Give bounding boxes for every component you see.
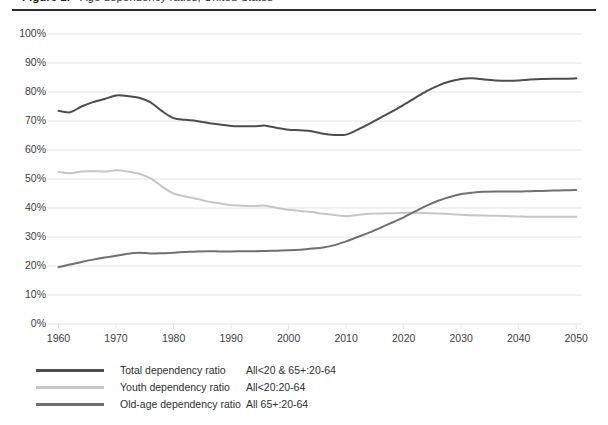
legend-series-name: Total dependency ratio: [120, 362, 226, 378]
figure-title-strip: Figure 1.Age dependency ratios, United S…: [0, 0, 608, 9]
x-axis-label: 1980: [154, 332, 194, 344]
series-line-oldage: [59, 190, 577, 267]
series-line-youth: [59, 170, 577, 216]
title-divider: [12, 9, 596, 11]
figure-container: Figure 1.Age dependency ratios, United S…: [0, 0, 608, 425]
page-title: Age dependency ratios, United States: [70, 0, 273, 3]
x-axis-label: 2010: [326, 332, 366, 344]
gridlines: [47, 34, 582, 324]
x-axis-ticks: [59, 324, 577, 329]
x-axis-label: 2000: [269, 332, 309, 344]
x-axis-label: 2020: [384, 332, 424, 344]
legend-series-name: Youth dependency ratio: [120, 379, 230, 395]
legend-series-definition: All 65+:20-64: [246, 396, 308, 412]
x-axis-label: 1970: [96, 332, 136, 344]
legend-series-definition: All<20 & 65+:20-64: [246, 362, 336, 378]
x-axis-label: 1990: [211, 332, 251, 344]
data-lines: [59, 78, 577, 267]
x-axis-label: 1960: [39, 332, 79, 344]
legend-item[interactable]: Total dependency ratioAll<20 & 65+:20-64: [36, 362, 456, 378]
x-axis-labels: 1960197019801990200020102020203020402050: [0, 332, 608, 352]
chart-canvas: [0, 22, 608, 332]
x-axis-label: 2030: [441, 332, 481, 344]
x-axis-label: 2040: [499, 332, 539, 344]
legend-item[interactable]: Old-age dependency ratioAll 65+:20-64: [36, 396, 456, 412]
chart-legend: Total dependency ratioAll<20 & 65+:20-64…: [0, 362, 608, 420]
figure-label: Figure 1.: [0, 0, 70, 3]
legend-line-swatch: [36, 369, 104, 372]
legend-series-name: Old-age dependency ratio: [120, 396, 241, 412]
series-line-total: [59, 78, 577, 135]
legend-series-definition: All<20:20-64: [246, 379, 305, 395]
legend-line-swatch: [36, 386, 104, 389]
legend-item[interactable]: Youth dependency ratioAll<20:20-64: [36, 379, 456, 395]
plot-area: 0%10%20%30%40%50%60%70%80%90%100%: [0, 22, 608, 332]
legend-line-swatch: [36, 403, 104, 406]
x-axis-label: 2050: [556, 332, 596, 344]
